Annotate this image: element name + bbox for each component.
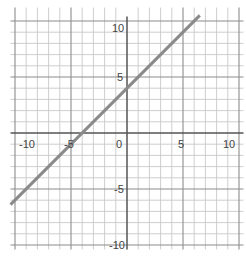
y-tick-label: -5 xyxy=(114,183,124,195)
x-tick-label: 0 xyxy=(116,138,122,150)
x-tick-label: 10 xyxy=(223,138,235,150)
x-tick-label: -10 xyxy=(19,138,35,150)
coordinate-plane: -10 -5 0 5 10 10 5 -5 -10 xyxy=(0,0,246,259)
x-tick-label: 5 xyxy=(178,138,184,150)
y-tick-label: 10 xyxy=(112,22,124,34)
y-tick-label: 5 xyxy=(117,71,123,83)
x-tick-label: -5 xyxy=(64,138,74,150)
y-tick-label: -10 xyxy=(109,239,125,251)
axes xyxy=(11,17,244,250)
